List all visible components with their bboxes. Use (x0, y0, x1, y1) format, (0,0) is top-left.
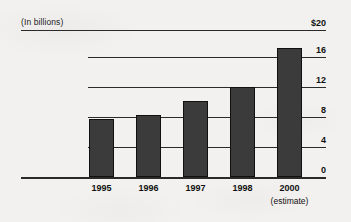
gridline-20 (21, 30, 326, 31)
x-tick-label-1995: 1995 (81, 183, 122, 193)
bar-2000[interactable] (277, 48, 302, 177)
x-tick-label-1996: 1996 (128, 183, 169, 193)
x-tick-sublabel-2000-estimate: (estimate) (264, 196, 315, 206)
x-tick-label-2000: 2000 (269, 183, 310, 193)
bar-1996[interactable] (136, 115, 161, 177)
bar-1997[interactable] (183, 101, 208, 177)
bar-1998[interactable] (230, 87, 255, 177)
x-axis-baseline (21, 177, 326, 179)
bar-1995[interactable] (89, 119, 114, 177)
chart-units-caption: (In billions) (21, 17, 63, 27)
x-tick-label-1998: 1998 (222, 183, 263, 193)
y-tick-label-20: $20 (286, 18, 326, 28)
bar-chart: (In billions) $20 16 12 8 4 0 1995 1996 … (0, 0, 351, 222)
x-tick-label-1997: 1997 (175, 183, 216, 193)
